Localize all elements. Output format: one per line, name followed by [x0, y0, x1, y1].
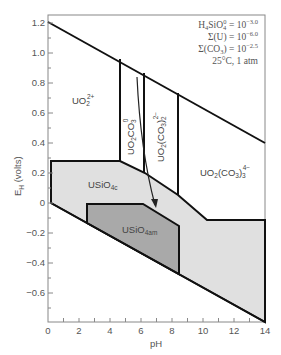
svg-text:6: 6: [138, 325, 143, 336]
svg-text:0: 0: [40, 197, 45, 208]
svg-text:12: 12: [229, 325, 240, 336]
label-uo2co3-3: UO2(CO3)34−: [200, 164, 250, 179]
svg-text:0.8: 0.8: [32, 77, 45, 88]
condition-sigma-co3: Σ(CO3) = 10−2.5: [198, 42, 258, 55]
label-uo2co3-2: UO2(CO3)22−: [152, 112, 167, 162]
x-tick-labels: 0 2 4 6 8 10 12 14: [45, 325, 270, 336]
svg-text:0.4: 0.4: [32, 137, 45, 148]
x-ticks: [64, 318, 250, 322]
svg-text:0.6: 0.6: [32, 107, 45, 118]
svg-text:1.0: 1.0: [32, 47, 45, 58]
label-uo2co3: UO2CO30: [122, 118, 137, 155]
svg-text:1.2: 1.2: [32, 17, 45, 28]
svg-text:−0.2: −0.2: [26, 227, 45, 238]
pourbaix-diagram: 1.2 1.0 0.8 0.6 0.4 0.2 0 −0.2 −0.4 −0.6…: [0, 0, 281, 355]
y-tick-labels: 1.2 1.0 0.8 0.6 0.4 0.2 0 −0.2 −0.4 −0.6: [26, 17, 45, 298]
svg-text:−0.4: −0.4: [26, 257, 45, 268]
svg-text:−0.6: −0.6: [26, 287, 45, 298]
svg-text:8: 8: [169, 325, 174, 336]
conditions-legend: H4SiO40 = 10−3.0 Σ(U) = 10−6.0 Σ(CO3) = …: [198, 18, 258, 66]
x-axis-title: pH: [150, 338, 162, 349]
svg-text:2: 2: [76, 325, 81, 336]
label-uo2-2plus: UO22+: [72, 93, 94, 107]
svg-text:0.2: 0.2: [32, 167, 45, 178]
svg-text:0: 0: [45, 325, 50, 336]
svg-text:10: 10: [198, 325, 209, 336]
svg-text:4: 4: [107, 325, 112, 336]
svg-text:14: 14: [260, 325, 271, 336]
y-axis-title: EH (volts): [12, 156, 25, 196]
condition-temp-pressure: 25°C, 1 atm: [212, 56, 258, 66]
